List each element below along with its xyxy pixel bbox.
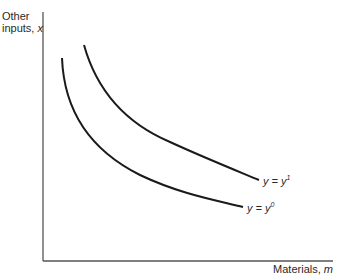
isoquant-y0-label-sup: 0 [271,201,275,208]
isoquant-y1-label-text: y = y [263,175,287,187]
isoquant-y0-label-text: y = y [247,202,271,214]
y-axis-label-line2: inputs, [2,22,37,34]
isoquant-y1-curve [84,45,259,180]
y-axis-label-line1: Other [2,10,43,22]
isoquant-y1-label-sup: 1 [287,174,291,181]
x-axis-label: Materials, m [273,263,333,275]
y-axis-variable: x [37,22,43,34]
y-axis-label: Other inputs, x [2,10,43,34]
isoquant-y0-label: y = y0 [247,201,274,214]
isoquant-y1-label: y = y1 [263,174,290,187]
isoquant-diagram [0,0,341,278]
x-axis-variable: m [324,263,333,275]
x-axis-label-text: Materials, [273,263,324,275]
